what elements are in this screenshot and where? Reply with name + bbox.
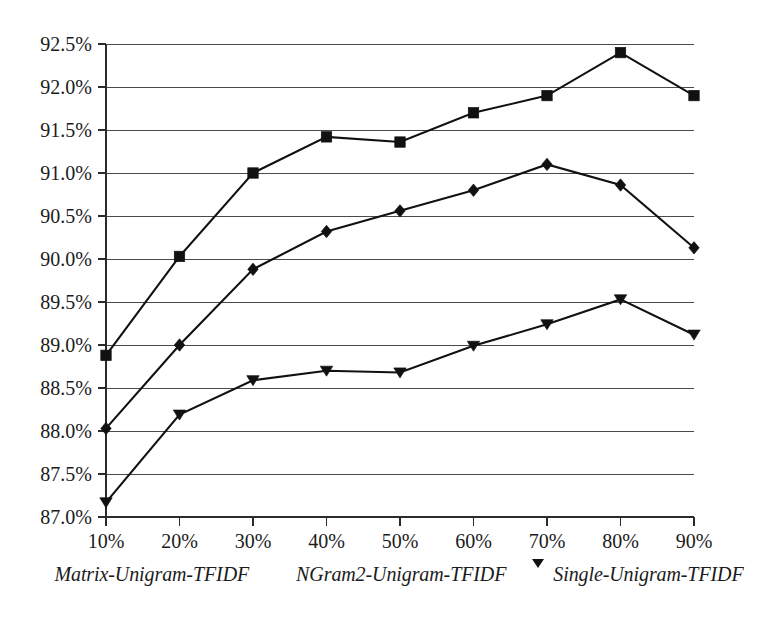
y-axis-tick-labels: 92.5%92.0%91.5%91.0%90.5%90.0%89.5%89.0%…: [40, 33, 92, 528]
series-line-1: [106, 53, 694, 356]
y-tick-label: 90.0%: [40, 248, 92, 270]
legend-entry: Single-Unigram-TFIDF: [532, 563, 743, 586]
marker-glyph: [532, 559, 544, 585]
x-tick-label: 50%: [382, 530, 419, 552]
data-point-marker: [688, 330, 700, 340]
x-tick-label: 20%: [161, 530, 198, 552]
data-series: [100, 295, 700, 508]
data-series: [101, 47, 699, 360]
y-tick-label: 89.5%: [40, 291, 92, 313]
x-tick-label: 80%: [602, 530, 639, 552]
data-point-marker: [542, 158, 552, 170]
data-point-marker: [321, 225, 331, 237]
x-tick-label: 10%: [88, 530, 125, 552]
data-point-marker: [468, 108, 478, 118]
data-point-marker: [248, 168, 258, 178]
y-tick-label: 90.5%: [40, 205, 92, 227]
y-tick-label: 88.0%: [40, 420, 92, 442]
y-tick-label: 89.0%: [40, 334, 92, 356]
data-point-marker: [467, 341, 479, 351]
legend-marker-triangle-down-icon: [532, 568, 545, 581]
y-tick-label: 87.5%: [40, 463, 92, 485]
data-point-marker: [689, 90, 699, 100]
legend-marker-diamond-icon: [275, 568, 288, 581]
y-tick-label: 92.0%: [40, 76, 92, 98]
data-point-marker: [395, 137, 405, 147]
x-axis-tick-labels: 10%20%30%40%50%60%70%80%90%: [88, 530, 713, 552]
chart-legend: Matrix-Unigram-TFIDFNGram2-Unigram-TFIDF…: [0, 563, 777, 586]
data-point-marker: [468, 184, 478, 196]
legend-label: Single-Unigram-TFIDF: [553, 563, 743, 586]
data-point-marker: [395, 205, 405, 217]
data-point-marker: [101, 350, 111, 360]
y-axis-ticks: [98, 44, 106, 517]
legend-entry: Matrix-Unigram-TFIDF: [33, 563, 249, 586]
y-tick-label: 87.0%: [40, 506, 92, 528]
y-tick-label: 92.5%: [40, 33, 92, 55]
y-tick-label: 91.5%: [40, 119, 92, 141]
legend-label: Matrix-Unigram-TFIDF: [54, 563, 249, 586]
data-point-marker: [542, 90, 552, 100]
data-series-group: [100, 47, 700, 507]
data-point-marker: [100, 498, 112, 508]
gridlines: [106, 44, 694, 517]
data-series: [101, 158, 699, 434]
line-chart-canvas: 92.5%92.0%91.5%91.0%90.5%90.0%89.5%89.0%…: [0, 0, 777, 620]
legend-entry: NGram2-Unigram-TFIDF: [275, 563, 506, 586]
chart-figure: 92.5%92.0%91.5%91.0%90.5%90.0%89.5%89.0%…: [0, 0, 777, 620]
y-tick-label: 88.5%: [40, 377, 92, 399]
x-tick-label: 40%: [308, 530, 345, 552]
data-point-marker: [321, 132, 331, 142]
data-point-marker: [174, 251, 184, 261]
y-tick-label: 91.0%: [40, 162, 92, 184]
series-line-2: [106, 164, 694, 428]
x-axis-ticks: [106, 517, 694, 526]
legend-marker-square-icon: [33, 568, 46, 581]
x-tick-label: 60%: [455, 530, 492, 552]
x-tick-label: 70%: [529, 530, 566, 552]
data-point-marker: [615, 47, 625, 57]
x-tick-label: 30%: [235, 530, 272, 552]
legend-label: NGram2-Unigram-TFIDF: [296, 563, 506, 586]
x-tick-label: 90%: [676, 530, 713, 552]
